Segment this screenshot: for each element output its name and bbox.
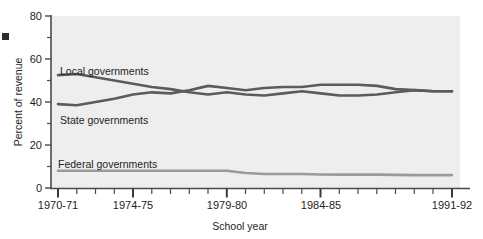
x-tick-label: 1984-85 bbox=[301, 199, 341, 211]
page-edge-artifact bbox=[2, 33, 9, 40]
x-ticks bbox=[58, 189, 452, 198]
x-tick-label: 1979-80 bbox=[207, 199, 247, 211]
x-tick-label: 1974-75 bbox=[113, 199, 153, 211]
chart-figure: 80 60 40 20 0 Percent of revenue bbox=[0, 0, 483, 239]
series-label-state-governments: State governments bbox=[60, 114, 148, 126]
y-tick-label: 80 bbox=[30, 10, 42, 22]
series-label-local-governments: Local governments bbox=[60, 65, 149, 77]
x-tick-label: 1970-71 bbox=[38, 199, 78, 211]
x-axis-title: School year bbox=[212, 220, 268, 232]
x-tick-label: 1991-92 bbox=[432, 199, 472, 211]
y-tick-label: 20 bbox=[30, 139, 42, 151]
x-tick-labels: 1970-71 1974-75 1979-80 1984-85 1991-92 bbox=[38, 199, 472, 211]
y-major-ticks bbox=[45, 16, 51, 188]
y-tick-labels: 80 60 40 20 0 bbox=[30, 10, 42, 194]
y-tick-label: 60 bbox=[30, 53, 42, 65]
y-tick-label: 40 bbox=[30, 96, 42, 108]
y-axis-title: Percent of revenue bbox=[12, 57, 24, 146]
y-tick-label: 0 bbox=[36, 182, 42, 194]
revenue-sources-line-chart: 80 60 40 20 0 Percent of revenue bbox=[0, 0, 483, 239]
series-label-federal-governments: Federal governments bbox=[58, 158, 157, 170]
